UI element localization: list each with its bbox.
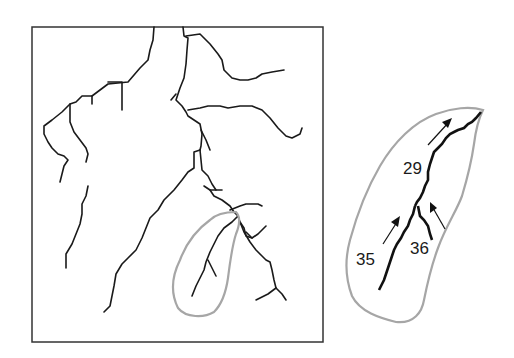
flow-arrow-downstream-icon — [428, 118, 452, 145]
inset-basin-outline — [346, 108, 483, 322]
segment-label-29: 29 — [403, 159, 422, 178]
stream-network — [44, 27, 302, 312]
flow-arrow-right-tributary-icon — [430, 202, 445, 229]
segment-label-36: 36 — [410, 239, 429, 258]
inset-basin: 29 35 36 — [346, 108, 483, 322]
segment-label-35: 35 — [356, 250, 375, 269]
stream-network-figure: 29 35 36 — [0, 0, 514, 358]
stream-segment-36 — [418, 206, 432, 240]
flow-arrow-left-tributary-icon — [383, 216, 400, 244]
